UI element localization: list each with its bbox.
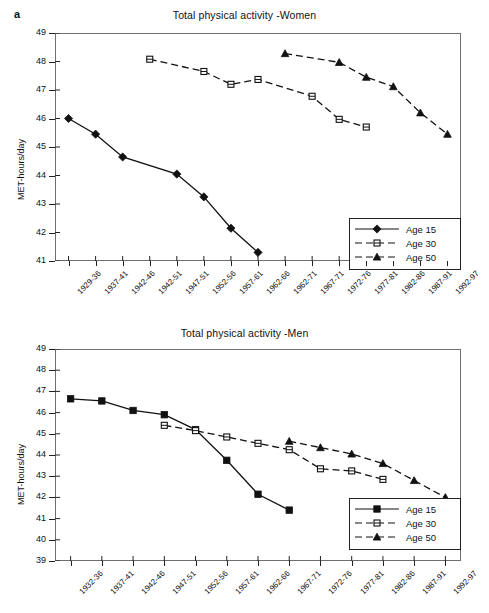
y-tick-mark bbox=[49, 62, 55, 63]
x-tick-label: 1952-56 bbox=[210, 269, 237, 296]
y-tick-mark bbox=[49, 349, 55, 350]
x-tick-mark bbox=[133, 561, 134, 566]
y-tick-label: 42 bbox=[22, 491, 46, 501]
x-tick-mark bbox=[447, 261, 448, 266]
legend-item[interactable]: Age 30 bbox=[354, 516, 456, 530]
y-tick-mark bbox=[49, 261, 55, 262]
y-tick-mark bbox=[49, 370, 55, 371]
y-tick-label: 49 bbox=[22, 27, 46, 37]
y-tick-label: 41 bbox=[22, 255, 46, 265]
chart-title-women: Total physical activity -Women bbox=[0, 9, 489, 21]
x-tick-mark bbox=[258, 561, 259, 566]
y-tick-label: 43 bbox=[22, 198, 46, 208]
y-tick-label: 49 bbox=[22, 343, 46, 353]
y-tick-mark bbox=[49, 119, 55, 120]
y-tick-label: 48 bbox=[22, 56, 46, 66]
legend-label: Age 50 bbox=[400, 252, 436, 263]
x-tick-label: 1942-46 bbox=[129, 269, 156, 296]
y-tick-label: 40 bbox=[22, 534, 46, 544]
y-tick-label: 47 bbox=[22, 385, 46, 395]
y-tick-label: 47 bbox=[22, 84, 46, 94]
x-tick-mark bbox=[258, 261, 259, 266]
x-tick-mark bbox=[312, 261, 313, 266]
x-tick-label: 1952-56 bbox=[202, 569, 229, 596]
x-tick-label: 1987-91 bbox=[427, 269, 454, 296]
y-tick-mark bbox=[49, 33, 55, 34]
legend-key-square-icon bbox=[354, 236, 400, 250]
legend-key-diamond-icon bbox=[354, 222, 400, 236]
x-tick-mark bbox=[227, 561, 228, 566]
x-tick-mark bbox=[102, 561, 103, 566]
x-tick-label: 1937-41 bbox=[108, 569, 135, 596]
x-tick-label: 1972-76 bbox=[346, 269, 373, 296]
y-tick-label: 44 bbox=[22, 170, 46, 180]
y-tick-mark bbox=[49, 476, 55, 477]
y-tick-label: 46 bbox=[22, 407, 46, 417]
x-tick-mark bbox=[289, 561, 290, 566]
x-tick-mark bbox=[420, 261, 421, 266]
legend-men: Age 15Age 30Age 50 bbox=[349, 498, 461, 550]
x-tick-label: 1942-46 bbox=[140, 569, 167, 596]
y-tick-label: 44 bbox=[22, 449, 46, 459]
x-tick-label: 1977-81 bbox=[358, 569, 385, 596]
x-tick-mark bbox=[69, 261, 70, 266]
y-tick-label: 45 bbox=[22, 141, 46, 151]
x-tick-mark bbox=[352, 561, 353, 566]
x-tick-mark bbox=[383, 561, 384, 566]
x-tick-label: 1937-41 bbox=[102, 269, 129, 296]
x-tick-label: 1962-71 bbox=[292, 269, 319, 296]
x-tick-mark bbox=[231, 261, 232, 266]
y-tick-mark bbox=[49, 455, 55, 456]
legend-item[interactable]: Age 50 bbox=[354, 530, 456, 544]
legend-item[interactable]: Age 50 bbox=[354, 250, 456, 264]
legend-label: Age 50 bbox=[400, 532, 436, 543]
y-tick-label: 42 bbox=[22, 227, 46, 237]
legend-key-square-icon bbox=[354, 502, 400, 516]
legend-label: Age 15 bbox=[400, 504, 436, 515]
y-tick-label: 46 bbox=[22, 113, 46, 123]
chart-women: Total physical activity -Women MET-hours… bbox=[0, 0, 489, 320]
x-tick-mark bbox=[204, 261, 205, 266]
y-tick-mark bbox=[49, 519, 55, 520]
x-tick-label: 1982-86 bbox=[400, 269, 427, 296]
legend-label: Age 15 bbox=[400, 224, 436, 235]
y-tick-mark bbox=[49, 413, 55, 414]
x-tick-mark bbox=[320, 561, 321, 566]
x-tick-mark bbox=[339, 261, 340, 266]
x-tick-label: 1982-86 bbox=[390, 569, 417, 596]
x-tick-label: 1947-51 bbox=[171, 569, 198, 596]
legend-key-triangle-icon bbox=[354, 530, 400, 544]
legend-item[interactable]: Age 15 bbox=[354, 222, 456, 236]
x-tick-label: 1992-97 bbox=[452, 569, 479, 596]
y-tick-mark bbox=[49, 497, 55, 498]
x-tick-mark bbox=[285, 261, 286, 266]
y-tick-mark bbox=[49, 561, 55, 562]
x-tick-mark bbox=[71, 561, 72, 566]
y-tick-label: 48 bbox=[22, 364, 46, 374]
legend-item[interactable]: Age 30 bbox=[354, 236, 456, 250]
x-tick-mark bbox=[96, 261, 97, 266]
legend-key-square-icon bbox=[354, 516, 400, 530]
x-tick-label: 1977-81 bbox=[373, 269, 400, 296]
x-tick-mark bbox=[414, 561, 415, 566]
chart-title-men: Total physical activity -Men bbox=[0, 327, 489, 339]
x-tick-label: 1972-76 bbox=[327, 569, 354, 596]
y-tick-label: 41 bbox=[22, 513, 46, 523]
x-tick-label: 1962-66 bbox=[265, 569, 292, 596]
y-tick-mark bbox=[49, 90, 55, 91]
x-tick-label: 1957-61 bbox=[238, 269, 265, 296]
x-tick-mark bbox=[150, 261, 151, 266]
x-tick-mark bbox=[196, 561, 197, 566]
y-tick-mark bbox=[49, 391, 55, 392]
legend-label: Age 30 bbox=[400, 238, 436, 249]
x-tick-label: 1932-36 bbox=[77, 569, 104, 596]
y-tick-mark bbox=[49, 540, 55, 541]
chart-men: Total physical activity -Men MET-hours/d… bbox=[0, 320, 489, 613]
y-tick-label: 43 bbox=[22, 470, 46, 480]
x-tick-label: 1962-66 bbox=[265, 269, 292, 296]
legend-item[interactable]: Age 15 bbox=[354, 502, 456, 516]
x-tick-label: 1987-91 bbox=[421, 569, 448, 596]
y-tick-label: 45 bbox=[22, 428, 46, 438]
x-tick-label: 1957-61 bbox=[233, 569, 260, 596]
y-tick-label: 39 bbox=[22, 555, 46, 565]
